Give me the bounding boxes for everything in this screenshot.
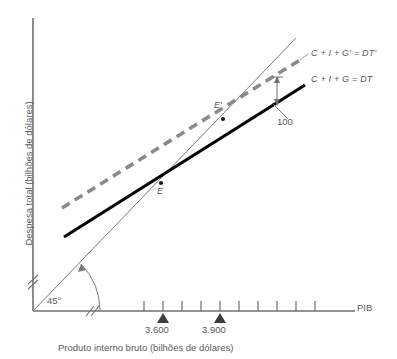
series-label-dt-prime: C + I + G' = DT' [311,48,376,58]
point-label-E: E [157,186,163,196]
series-line-dt [64,85,305,237]
point-label-E-prime: E' [214,100,222,110]
angle-arc-icon [81,264,100,311]
series-label-leader-dt-prime [300,54,308,60]
angle-label-45deg: 45° [47,296,61,307]
x-axis-title: Produto interno bruto (bilhões de dólare… [58,343,233,354]
tick-marker-3600 [157,313,169,323]
series-label-dt: C + I + G = DT [311,74,373,84]
tick-marker-3900 [214,313,226,323]
x-tick-label-3900: 3.900 [202,325,226,336]
x-axis-ticks [144,301,315,311]
x-tick-label-3600: 3.600 [145,325,169,336]
point-marker-E-prime [221,117,225,121]
point-marker-E [159,181,163,185]
x-axis-end-label: PIB [357,303,372,314]
series-line-dt-prime [62,60,300,208]
chart-figure: Despesa total (bilhões de dólares) Produ… [0,0,397,359]
gap-annotation-label: 100 [277,117,293,128]
y-axis-title: Despesa total (bilhões de dólares) [24,83,35,263]
